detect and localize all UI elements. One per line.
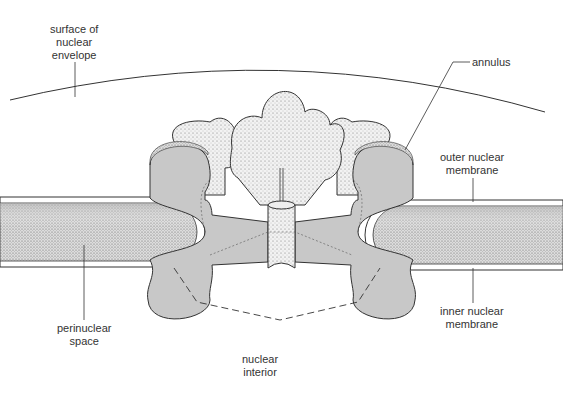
label-surface-of-nuclear-envelope: surface of nuclear envelope	[50, 23, 98, 62]
label-nuclear-interior: nuclear interior	[242, 353, 278, 379]
central-channel	[268, 201, 295, 268]
label-annulus: annulus	[472, 56, 511, 69]
annulus-leader-line	[405, 62, 470, 150]
label-inner-nuclear-membrane: inner nuclear membrane	[440, 305, 504, 331]
label-perinuclear-space: perinuclear space	[57, 322, 111, 348]
label-outer-nuclear-membrane: outer nuclear membrane	[440, 151, 504, 177]
